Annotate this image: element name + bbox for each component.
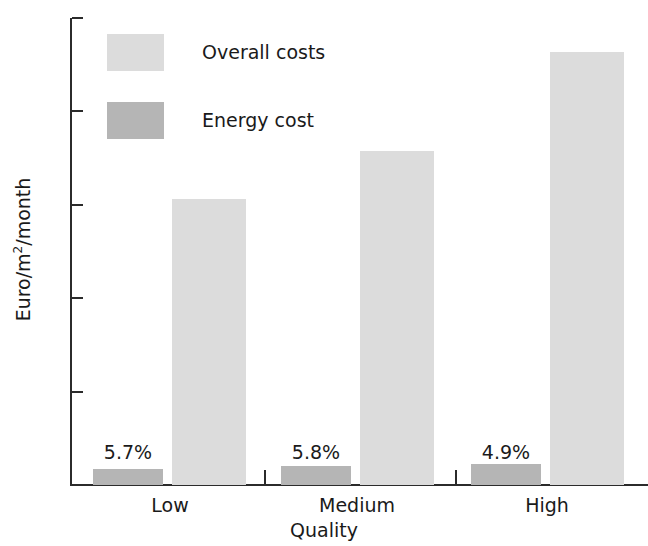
bar-energy-low bbox=[93, 469, 163, 485]
legend-item-energy-cost: Energy cost bbox=[107, 102, 314, 139]
y-tick-25 bbox=[72, 17, 83, 19]
x-tick-separator-2 bbox=[455, 470, 457, 484]
bar-overall-medium bbox=[360, 151, 434, 485]
x-tick-separator-1 bbox=[264, 470, 266, 484]
y-tick-20 bbox=[72, 110, 83, 112]
legend-label-overall-costs: Overall costs bbox=[202, 43, 325, 62]
x-axis-label-medium: Medium bbox=[307, 496, 407, 515]
bar-chart: 25 20 15 10 5 0 Euro/m2/month Quality 5.… bbox=[0, 0, 648, 546]
y-axis-title-prefix: Euro/m bbox=[12, 253, 34, 321]
x-axis-label-low: Low bbox=[120, 496, 220, 515]
x-axis-label-high: High bbox=[497, 496, 597, 515]
legend-swatch-overall-costs bbox=[107, 34, 164, 71]
bar-overall-low bbox=[172, 199, 246, 485]
bar-energy-high bbox=[471, 464, 541, 485]
bar-overall-high bbox=[550, 52, 624, 485]
y-tick-15 bbox=[72, 204, 83, 206]
y-axis-title-superscript: 2 bbox=[11, 246, 25, 254]
y-axis-line bbox=[70, 18, 72, 485]
y-axis-title: Euro/m2/month bbox=[14, 150, 33, 350]
y-axis-title-suffix: /month bbox=[12, 178, 34, 246]
bar-label-energy-high: 4.9% bbox=[471, 443, 541, 462]
y-tick-10 bbox=[72, 297, 83, 299]
x-axis-title: Quality bbox=[0, 521, 648, 540]
legend-label-energy-cost: Energy cost bbox=[202, 111, 314, 130]
legend-swatch-energy-cost bbox=[107, 102, 164, 139]
bar-label-energy-low: 5.7% bbox=[93, 443, 163, 462]
y-tick-5 bbox=[72, 391, 83, 393]
legend-item-overall-costs: Overall costs bbox=[107, 34, 325, 71]
bar-label-energy-medium: 5.8% bbox=[281, 443, 351, 462]
bar-energy-medium bbox=[281, 466, 351, 485]
